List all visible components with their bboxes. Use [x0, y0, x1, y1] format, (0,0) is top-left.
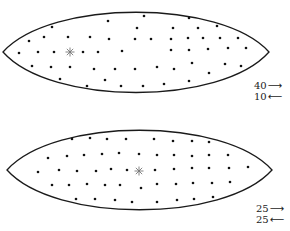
particle-dot [247, 166, 250, 169]
arrow-left-icon: ⟵ [270, 215, 284, 225]
particle-dot [212, 196, 215, 199]
particle-dot [114, 68, 117, 71]
particle-dot [229, 181, 232, 184]
particle-dot [125, 138, 128, 141]
particle-dot [93, 68, 96, 71]
particle-dot [126, 169, 129, 172]
bottom-rightward-count-label: 25 ⟶ [256, 204, 284, 214]
arrow-left-icon: ⟵ [268, 92, 282, 102]
particle-dot [228, 167, 231, 170]
particle-dot [134, 68, 137, 71]
particle-dot [67, 36, 70, 39]
particle-dot [69, 66, 72, 69]
particle-dot [197, 27, 200, 30]
particle-dot [86, 183, 89, 186]
particle-dot [237, 37, 240, 40]
top-lens-panel [3, 12, 269, 92]
particle-dot [89, 36, 92, 39]
particle-dot [83, 154, 86, 157]
particle-dot [172, 27, 175, 30]
particle-dot [188, 80, 191, 83]
particle-dot [51, 184, 54, 187]
particle-dot [173, 68, 176, 71]
particle-dot [191, 155, 194, 158]
particle-dot [240, 65, 243, 68]
particle-dot [37, 171, 40, 174]
arrow-right-icon: ⟶ [268, 81, 282, 91]
count-value: 10 [254, 92, 267, 102]
particle-dot [227, 154, 230, 157]
particle-dot [156, 154, 159, 157]
particle-dot [173, 154, 176, 157]
particle-dot [89, 137, 92, 140]
particle-dot [173, 168, 176, 171]
particle-dot [51, 26, 54, 29]
particle-dot [208, 141, 211, 144]
particle-dot [114, 199, 117, 202]
particle-dot [208, 154, 211, 157]
particle-dot [97, 51, 100, 54]
particle-dot [68, 184, 71, 187]
particle-dot [71, 138, 74, 141]
particle-dot [94, 198, 97, 201]
lens-outline [3, 12, 269, 92]
particle-dot [191, 167, 194, 170]
particle-dot [118, 152, 121, 155]
particle-dot [211, 182, 214, 185]
particle-dot [58, 169, 61, 172]
particle-dot [104, 79, 107, 82]
particle-dot [108, 38, 111, 41]
particle-dot [138, 153, 141, 156]
count-value: 25 [256, 215, 269, 225]
particle-dot [47, 157, 50, 160]
particle-dot [106, 138, 109, 141]
particle-dot [202, 37, 205, 40]
bottom-lens-panel [7, 130, 272, 210]
particle-dot [134, 38, 137, 41]
particle-dot [208, 167, 211, 170]
particle-dot [170, 38, 173, 41]
bottom-leftward-count-label: 25 ⟵ [256, 215, 284, 225]
particle-dot [18, 52, 21, 55]
particle-dot [59, 78, 62, 81]
particle-dot [121, 50, 124, 53]
particle-dot [43, 36, 46, 39]
particle-dot [53, 51, 56, 54]
particle-dot [143, 15, 146, 18]
particle-dot [188, 49, 191, 52]
particle-dot [37, 51, 40, 54]
particle-dot [156, 66, 159, 69]
particle-dot [110, 168, 113, 171]
particle-dot [227, 47, 230, 50]
particle-dot [119, 184, 122, 187]
particle-dot [191, 62, 194, 65]
particle-dot [82, 51, 85, 54]
particle-dot [224, 63, 227, 66]
particle-dot [131, 201, 134, 204]
arrow-right-icon: ⟶ [270, 204, 284, 214]
particle-dot [107, 20, 110, 23]
particle-dot [150, 38, 153, 41]
particle-dot [76, 170, 79, 173]
particle-dot [75, 198, 78, 201]
particle-dot [207, 48, 210, 51]
asterisk-marker-icon [66, 48, 75, 57]
count-value: 25 [256, 204, 269, 214]
particle-dot [142, 85, 145, 88]
particle-dot [187, 37, 190, 40]
particle-dot [245, 47, 248, 50]
particle-dot [31, 65, 34, 68]
particle-dot [153, 138, 156, 141]
particle-dot [172, 140, 175, 143]
particle-dot [86, 85, 89, 88]
particle-dot [163, 83, 166, 86]
particle-dot [140, 187, 143, 190]
particle-dot [154, 169, 157, 172]
particle-dot [170, 49, 173, 52]
particle-dot [50, 66, 53, 69]
particle-dot [175, 183, 178, 186]
particle-dot [216, 25, 219, 28]
particle-dot [208, 72, 211, 75]
particle-dot [156, 201, 159, 204]
particle-dot [193, 198, 196, 201]
